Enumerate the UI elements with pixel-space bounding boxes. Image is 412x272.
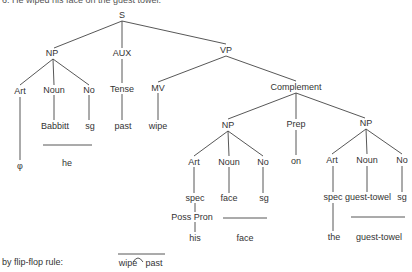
node-complement: Complement [270,82,321,92]
surface-he: he [62,158,72,168]
node-s: S [119,10,125,20]
leaf-on: on [291,156,301,166]
flip-flop-wipe: wipe [119,258,138,268]
leaf-sg: sg [85,121,95,131]
leaf-sg: sg [397,192,407,202]
node-mv: MV [151,83,165,93]
tree-branches [0,0,412,272]
node-np-object: NP [222,120,235,130]
node-np-prep-object: NP [360,118,373,128]
node-np-subject: NP [46,48,59,58]
syntax-tree-diagram: 6. He wiped his face on the guest towel. [0,0,412,272]
leaf-face: face [220,193,237,203]
node-noun: Noun [43,85,65,95]
node-art: Art [326,155,338,165]
flip-flop-rule-label: by flip-flop rule: [2,257,63,267]
node-poss-pron: Poss Pron [171,212,213,222]
leaf-phi: φ [17,161,23,171]
surface-guest-towel: guest-towel [356,232,402,242]
node-no: No [257,157,269,167]
node-noun: Noun [218,157,240,167]
node-no: No [83,85,95,95]
node-no: No [396,155,408,165]
leaf-his: his [189,233,201,243]
flip-flop-past: past [145,258,162,268]
leaf-sg: sg [259,193,269,203]
node-prep: Prep [286,119,305,129]
node-art: Art [14,86,26,96]
node-noun: Noun [356,155,378,165]
leaf-wipe: wipe [149,121,168,131]
leaf-the: the [328,232,341,242]
surface-face: face [236,233,253,243]
leaf-babbitt: Babbitt [41,121,69,131]
leaf-guest-towel: guest-towel [345,192,391,202]
node-vp: VP [220,45,232,55]
node-tense: Tense [110,84,134,94]
leaf-spec: spec [185,193,204,203]
node-art: Art [188,157,200,167]
leaf-past: past [114,121,131,131]
node-aux: AUX [113,48,132,58]
leaf-spec: spec [323,192,342,202]
